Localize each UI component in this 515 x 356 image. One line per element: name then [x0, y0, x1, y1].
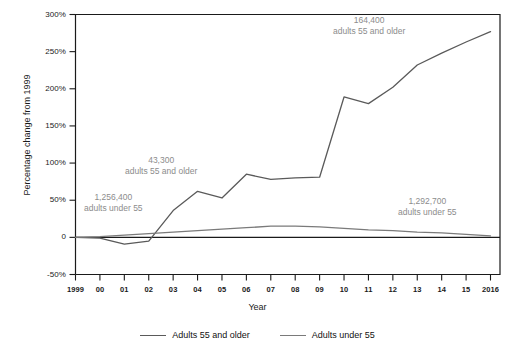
annotation-value: 1,292,700: [398, 196, 457, 207]
y-tick-label: 50%: [8, 195, 66, 204]
y-tick-label: -50%: [8, 270, 66, 279]
y-tick-label: 300%: [8, 10, 66, 19]
legend-label: Adults 55 and older: [172, 330, 250, 340]
axes-group: [76, 15, 501, 275]
annotation-label: adults under 55: [84, 203, 143, 214]
annotation-value: 1,256,400: [84, 192, 143, 203]
chart-figure: 300%250%200%150%100%50%0-50% 19990001020…: [0, 0, 515, 356]
y-tick-label: 0: [8, 232, 66, 241]
annotation-under-late: 1,292,700adults under 55: [398, 196, 457, 218]
annotation-older-late: 164,400adults 55 and older: [333, 15, 405, 37]
chart-legend: Adults 55 and olderAdults under 55: [0, 330, 515, 340]
x-axis-title: Year: [0, 302, 515, 312]
annotation-older-early: 43,300adults 55 and older: [125, 155, 197, 177]
annotation-value: 164,400: [333, 15, 405, 26]
y-tick-label: 150%: [8, 121, 66, 130]
legend-entry-1[interactable]: Adults under 55: [280, 330, 375, 340]
legend-entry-0[interactable]: Adults 55 and older: [140, 330, 250, 340]
legend-label: Adults under 55: [312, 330, 375, 340]
ticks-group: [70, 15, 491, 281]
y-axis-title: Percentage change from 1999: [22, 40, 32, 230]
plot-frame: [76, 15, 501, 275]
annotation-value: 43,300: [125, 155, 197, 166]
annotation-label: adults 55 and older: [333, 26, 405, 37]
y-tick-label: 100%: [8, 158, 66, 167]
legend-line-swatch: [280, 335, 306, 336]
annotation-label: adults under 55: [398, 207, 457, 218]
series-line-adults-under-55: [76, 226, 491, 237]
x-tick-label: 2016: [476, 285, 506, 294]
y-tick-label: 200%: [8, 84, 66, 93]
annotation-under-early: 1,256,400adults under 55: [84, 192, 143, 214]
annotation-label: adults 55 and older: [125, 166, 197, 177]
y-tick-label: 250%: [8, 47, 66, 56]
legend-line-swatch: [140, 335, 166, 336]
